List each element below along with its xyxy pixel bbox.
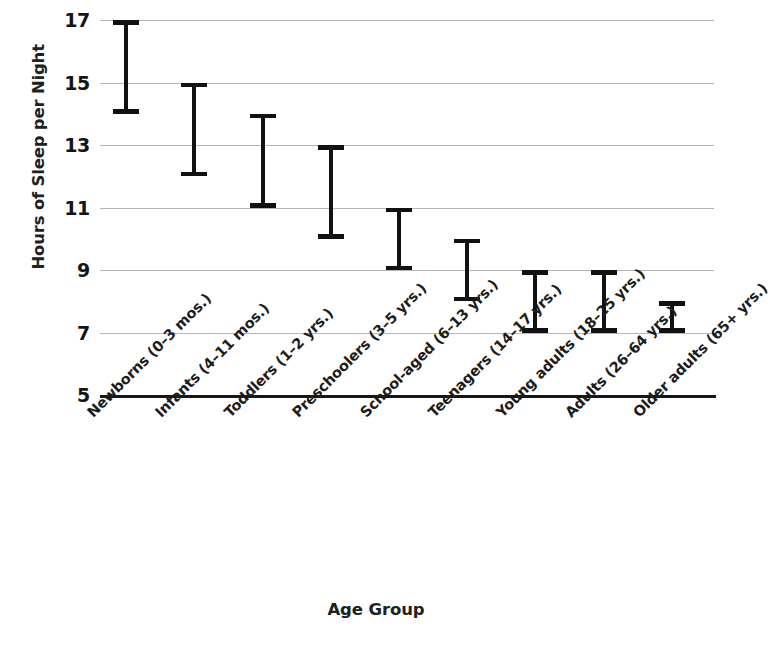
range-bar-lower-cap <box>181 172 207 177</box>
y-tick-label: 9 <box>50 259 90 281</box>
range-bar <box>329 145 333 239</box>
range-bar-lower-cap <box>386 266 412 271</box>
x-axis-line <box>100 395 716 398</box>
range-bar-lower-cap <box>113 109 139 114</box>
x-axis-title: Age Group <box>0 600 752 619</box>
y-axis-tick-labels: 17151311975 <box>48 0 90 658</box>
range-bar-upper-cap <box>181 83 207 88</box>
range-bar-upper-cap <box>522 270 548 275</box>
range-bar-lower-cap <box>250 203 276 208</box>
range-bar-upper-cap <box>318 145 344 150</box>
range-bar-upper-cap <box>386 208 412 213</box>
range-bar-upper-cap <box>113 20 139 25</box>
range-bar-upper-cap <box>454 239 480 244</box>
gridline <box>100 20 714 21</box>
range-bar <box>124 20 128 114</box>
y-tick-label: 11 <box>50 197 90 219</box>
range-bar-upper-cap <box>659 301 685 306</box>
range-bar <box>192 83 196 177</box>
range-bar <box>465 239 469 302</box>
y-tick-label: 15 <box>50 72 90 94</box>
y-tick-label: 5 <box>50 384 90 406</box>
range-bar-upper-cap <box>591 270 617 275</box>
range-bar-upper-cap <box>250 114 276 119</box>
gridline <box>100 270 714 271</box>
y-tick-label: 17 <box>50 9 90 31</box>
y-tick-label: 13 <box>50 134 90 156</box>
gridline <box>100 333 714 334</box>
y-tick-label: 7 <box>50 322 90 344</box>
range-bar-lower-cap <box>318 234 344 239</box>
range-bar <box>397 208 401 271</box>
y-axis-title: Hours of Sleep per Night <box>29 50 48 270</box>
range-bar <box>261 114 265 208</box>
